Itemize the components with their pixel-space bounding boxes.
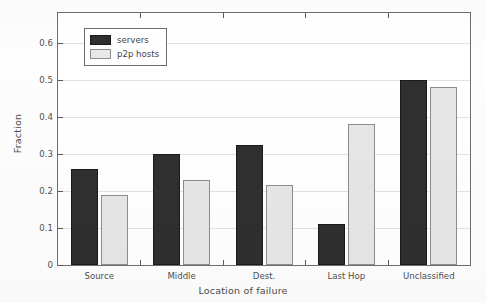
x-tick-label: Last Hop <box>327 271 365 281</box>
x-tick-label: Dest. <box>253 271 275 281</box>
y-tick <box>58 228 63 229</box>
legend-entry-servers: servers <box>90 33 159 47</box>
legend-label-servers: servers <box>117 35 149 45</box>
x-tick-top <box>223 13 224 18</box>
bar-p2p-hosts-last-hop <box>348 124 375 265</box>
bar-servers-source <box>71 169 98 265</box>
y-tick <box>58 80 63 81</box>
y-tick <box>58 154 63 155</box>
x-tick-top <box>140 13 141 18</box>
y-tick-label: 0.1 <box>39 223 53 233</box>
bar-servers-last-hop <box>318 224 345 265</box>
legend-swatch-p2p-hosts-icon <box>90 49 111 59</box>
bar-servers-unclassified <box>400 80 427 265</box>
y-tick-label: 0.2 <box>39 186 53 196</box>
x-tick-bottom <box>223 260 224 265</box>
x-tick-top <box>388 13 389 18</box>
y-tick-label: 0.6 <box>39 38 53 48</box>
bar-servers-dest- <box>236 145 263 265</box>
y-tick <box>58 117 63 118</box>
x-tick-bottom <box>305 260 306 265</box>
y-tick-label: 0 <box>48 260 53 270</box>
legend-label-p2p-hosts: p2p hosts <box>117 49 159 59</box>
legend-swatch-servers-icon <box>90 35 111 45</box>
bar-servers-middle <box>153 154 180 265</box>
plot-area: 00.10.20.30.40.50.6 SourceMiddleDest.Las… <box>57 12 471 266</box>
y-tick-label: 0.5 <box>39 75 53 85</box>
y-tick-label: 0.4 <box>39 112 53 122</box>
x-tick-label: Source <box>84 271 114 281</box>
y-tick <box>58 265 63 266</box>
y-tick <box>58 43 63 44</box>
bar-p2p-hosts-unclassified <box>430 87 457 265</box>
x-tick-label: Unclassified <box>403 271 455 281</box>
chart-legend: servers p2p hosts <box>84 28 167 66</box>
y-axis-title: Fraction <box>12 84 23 184</box>
x-tick-top <box>305 13 306 18</box>
x-axis-title: Location of failure <box>0 285 486 296</box>
x-tick-bottom <box>140 260 141 265</box>
y-tick-label: 0.3 <box>39 149 53 159</box>
bar-chart-figure: Fraction Location of failure 00.10.20.30… <box>0 0 486 303</box>
y-tick <box>58 191 63 192</box>
x-tick-label: Middle <box>167 271 195 281</box>
legend-entry-p2p-hosts: p2p hosts <box>90 47 159 61</box>
x-tick-bottom <box>388 260 389 265</box>
bar-p2p-hosts-middle <box>183 180 210 265</box>
bar-p2p-hosts-source <box>101 195 128 265</box>
bar-p2p-hosts-dest- <box>266 185 293 265</box>
